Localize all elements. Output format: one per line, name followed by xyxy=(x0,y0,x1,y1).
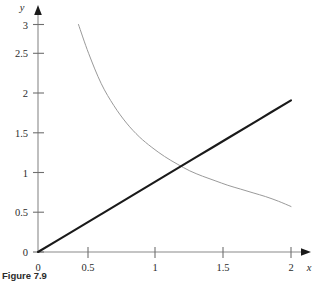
y-tick-label-2_5: 2.5 xyxy=(15,48,28,59)
y-tick-label-0_5: 0.5 xyxy=(15,207,28,218)
x-tick-label-0_5: 0.5 xyxy=(81,262,94,273)
x-tick-labels: 0 0.5 1 1.5 2 xyxy=(35,262,293,273)
x-axis-arrowhead xyxy=(301,248,311,256)
y-tick-labels: 0 0.5 1 1.5 2 2.5 3 xyxy=(15,20,28,259)
x-tick-label-2: 2 xyxy=(288,262,293,273)
y-tick-label-2: 2 xyxy=(23,88,28,99)
x-tick-label-1_5: 1.5 xyxy=(216,262,229,273)
y-tick-label-3: 3 xyxy=(23,20,28,31)
figure-container: 0 0.5 1 1.5 2 2.5 3 0 0.5 1 1.5 2 y x xyxy=(0,0,317,281)
x-axis-label: x xyxy=(306,262,312,273)
figure-caption: Figure 7.9 xyxy=(2,270,47,281)
series-line-decaying xyxy=(78,25,291,207)
series-group xyxy=(38,25,291,253)
chart-plot: 0 0.5 1 1.5 2 2.5 3 0 0.5 1 1.5 2 y x xyxy=(0,0,317,281)
y-tick-label-0: 0 xyxy=(23,247,28,258)
y-axis-arrowhead xyxy=(34,5,42,15)
y-axis-label: y xyxy=(19,2,25,13)
series-line-linear xyxy=(38,100,291,252)
y-tick-label-1_5: 1.5 xyxy=(15,128,28,139)
axes-group xyxy=(34,5,311,256)
y-tick-label-1: 1 xyxy=(23,168,28,179)
x-tick-label-1: 1 xyxy=(152,262,157,273)
